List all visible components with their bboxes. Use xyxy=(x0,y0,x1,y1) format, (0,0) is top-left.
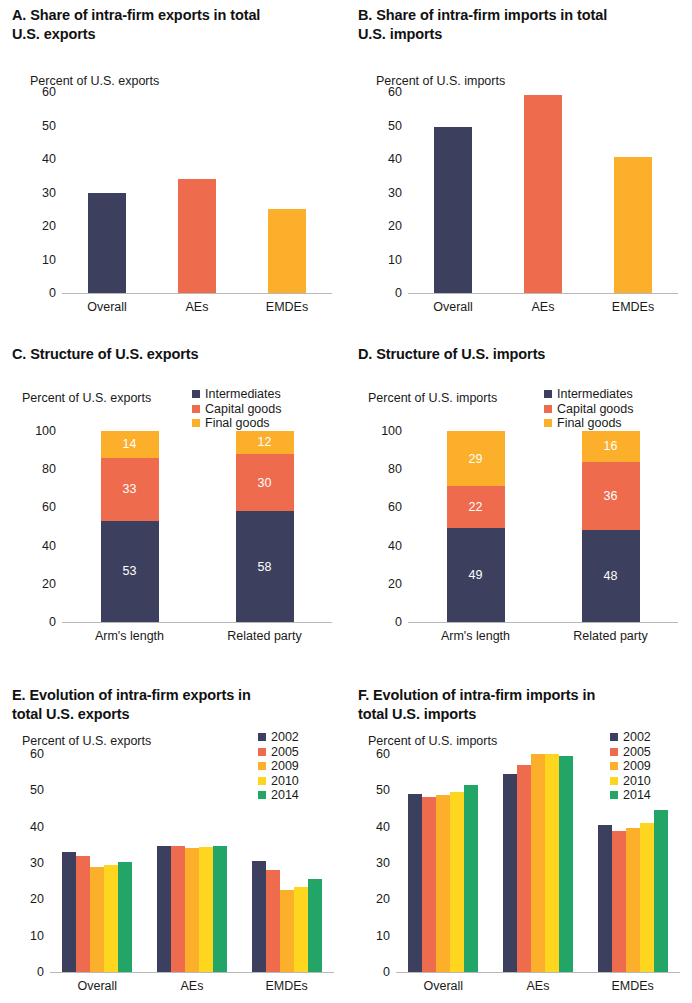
panel-f-title: F. Evolution of intra-firm imports in to… xyxy=(358,686,692,724)
legend-label: 2002 xyxy=(623,730,651,745)
grouped-bar xyxy=(104,865,118,972)
grouped-bar xyxy=(280,890,294,972)
grouped-bar xyxy=(171,846,185,972)
stacked-bar: 492229 xyxy=(447,431,505,622)
panel-d-legend: IntermediatesCapital goodsFinal goods xyxy=(544,387,633,431)
grouped-bar xyxy=(185,848,199,972)
bar xyxy=(268,209,306,293)
panel-b-baseline xyxy=(408,293,678,294)
legend-swatch-icon xyxy=(544,405,552,413)
legend-item: Capital goods xyxy=(544,402,633,417)
stack-segment: 30 xyxy=(236,454,294,511)
bar xyxy=(434,127,472,293)
y-axis-tick: 20 xyxy=(388,578,402,591)
grouped-bar xyxy=(76,856,90,972)
y-axis-tick: 40 xyxy=(42,153,56,166)
bar xyxy=(614,157,652,293)
y-axis-tick: 50 xyxy=(376,784,390,797)
panel-d-axis-note: Percent of U.S. imports xyxy=(368,391,497,405)
y-axis-tick: 0 xyxy=(37,966,44,979)
grouped-bar xyxy=(545,754,559,972)
y-axis-tick: 20 xyxy=(388,220,402,233)
grouped-bar xyxy=(612,831,626,972)
y-axis-tick: 40 xyxy=(388,153,402,166)
y-axis-tick: 10 xyxy=(30,929,44,942)
stack-segment: 29 xyxy=(447,431,505,486)
y-axis-tick: 20 xyxy=(42,578,56,591)
panel-b: B. Share of intra-firm imports in total … xyxy=(358,6,692,330)
panel-a-title: A. Share of intra-firm exports in total … xyxy=(12,6,342,44)
legend-label: Final goods xyxy=(557,416,622,431)
x-axis-label: Overall xyxy=(433,301,473,314)
stack-segment: 58 xyxy=(236,511,294,622)
y-axis-tick: 20 xyxy=(30,893,44,906)
panel-f-plot: 0102030405060OverallAEsEMDEs xyxy=(396,754,680,973)
grouped-bar xyxy=(213,846,227,972)
legend-item: Final goods xyxy=(192,416,281,431)
y-axis-tick: 10 xyxy=(388,253,402,266)
stacked-bar: 583012 xyxy=(236,431,294,622)
y-axis-tick: 40 xyxy=(42,539,56,552)
grouped-bar xyxy=(436,795,450,972)
y-axis-tick: 30 xyxy=(376,857,390,870)
grouped-bar xyxy=(464,785,478,972)
panel-c-axis-note: Percent of U.S. exports xyxy=(22,391,151,405)
y-axis-tick: 30 xyxy=(42,186,56,199)
grouped-bar xyxy=(308,879,322,972)
x-axis-label: AEs xyxy=(186,301,209,314)
panel-a: A. Share of intra-firm exports in total … xyxy=(12,6,346,330)
grouped-bar xyxy=(531,754,545,972)
legend-label: Intermediates xyxy=(205,387,281,402)
legend-label: Capital goods xyxy=(205,402,281,417)
x-axis-label: Arm's length xyxy=(95,630,164,643)
grouped-bar xyxy=(654,810,668,972)
panel-f-baseline xyxy=(396,972,680,973)
panel-c-title: C. Structure of U.S. exports xyxy=(12,345,342,364)
y-axis-tick: 60 xyxy=(42,86,56,99)
legend-item: 2002 xyxy=(610,730,651,745)
legend-item: 2002 xyxy=(258,730,299,745)
grouped-bar xyxy=(62,852,76,972)
legend-label: Final goods xyxy=(205,416,270,431)
x-axis-label: Related party xyxy=(227,630,301,643)
y-axis-tick: 40 xyxy=(376,820,390,833)
panel-e: E. Evolution of intra-firm exports in to… xyxy=(12,686,346,1003)
y-axis-tick: 100 xyxy=(381,425,402,438)
segment-value-label: 53 xyxy=(101,565,159,578)
x-axis-label: AEs xyxy=(527,980,550,993)
grouped-bar xyxy=(598,825,612,972)
legend-item: Intermediates xyxy=(192,387,281,402)
stack-segment: 36 xyxy=(582,462,640,531)
y-axis-tick: 60 xyxy=(376,748,390,761)
segment-value-label: 36 xyxy=(582,490,640,503)
panel-c: C. Structure of U.S. exports Percent of … xyxy=(12,345,346,670)
grouped-bar xyxy=(118,862,132,972)
grouped-bar xyxy=(503,774,517,972)
segment-value-label: 22 xyxy=(447,501,505,514)
stack-segment: 22 xyxy=(447,486,505,528)
legend-item: Capital goods xyxy=(192,402,281,417)
y-axis-tick: 100 xyxy=(35,425,56,438)
segment-value-label: 30 xyxy=(236,476,294,489)
x-axis-label: EMDEs xyxy=(266,301,308,314)
stack-segment: 49 xyxy=(447,528,505,622)
stack-segment: 53 xyxy=(101,521,159,622)
segment-value-label: 48 xyxy=(582,570,640,583)
stack-segment: 33 xyxy=(101,458,159,521)
bar xyxy=(88,193,126,294)
panel-e-plot: 0102030405060OverallAEsEMDEs xyxy=(50,754,334,973)
y-axis-tick: 0 xyxy=(395,287,402,300)
y-axis-tick: 60 xyxy=(42,501,56,514)
stack-segment: 12 xyxy=(236,431,294,454)
legend-swatch-icon xyxy=(544,419,552,427)
y-axis-tick: 10 xyxy=(42,253,56,266)
y-axis-tick: 50 xyxy=(42,119,56,132)
y-axis-tick: 10 xyxy=(376,929,390,942)
segment-value-label: 33 xyxy=(101,483,159,496)
panel-c-plot: 020406080100533314583012Arm's lengthRela… xyxy=(62,431,332,623)
stacked-bar: 483616 xyxy=(582,431,640,622)
x-axis-label: AEs xyxy=(181,980,204,993)
y-axis-tick: 20 xyxy=(42,220,56,233)
panel-f: F. Evolution of intra-firm imports in to… xyxy=(358,686,692,1003)
y-axis-tick: 80 xyxy=(388,463,402,476)
